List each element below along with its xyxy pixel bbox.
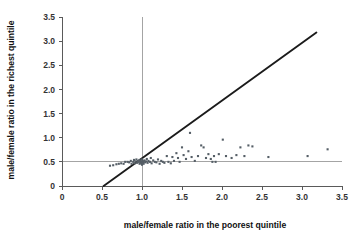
y-tick-label: 2.0 (43, 85, 55, 95)
x-axis-tick-labels: 00.51.01.52.02.53.03.5 (60, 192, 349, 202)
data-point (124, 161, 126, 163)
data-point (225, 155, 227, 157)
y-tick-label: 3.5 (43, 12, 55, 22)
data-point (151, 162, 153, 164)
data-point (134, 162, 136, 164)
data-point (215, 161, 217, 163)
x-tick-label: 3.0 (296, 192, 308, 202)
data-point (146, 158, 148, 160)
data-point (243, 155, 245, 157)
data-point (210, 158, 212, 160)
data-point (235, 154, 237, 156)
data-point (163, 162, 165, 164)
data-point (185, 158, 187, 160)
data-point (147, 162, 149, 164)
x-tick-label: 2.0 (216, 192, 228, 202)
data-point (207, 153, 209, 155)
data-point (189, 132, 191, 134)
data-point (118, 163, 120, 165)
data-point (173, 160, 175, 162)
data-point (251, 145, 253, 147)
data-point (194, 160, 196, 162)
data-point (131, 163, 133, 165)
x-tick-label: 0 (60, 192, 65, 202)
data-point (211, 161, 213, 163)
data-point (307, 155, 309, 157)
data-point (159, 163, 161, 165)
y-axis-tick-labels: 00.51.01.52.02.53.03.5 (43, 12, 55, 191)
y-tick-label: 3.0 (43, 36, 55, 46)
data-point (155, 161, 157, 163)
y-tick-label: 0.5 (43, 157, 55, 167)
data-point (183, 154, 185, 156)
data-point (171, 156, 173, 158)
data-point (166, 155, 168, 157)
data-point (213, 155, 215, 157)
axes-group (62, 17, 342, 186)
data-point (191, 156, 193, 158)
chart-container: 00.51.01.52.02.53.03.5 00.51.01.52.02.53… (0, 0, 362, 236)
data-point (197, 155, 199, 157)
data-point (167, 161, 169, 163)
data-point (181, 146, 183, 148)
data-point (157, 158, 159, 160)
data-point (222, 139, 224, 141)
x-axis-title: male/female ratio in the poorest quintil… (124, 220, 287, 230)
y-tick-label: 1.5 (43, 109, 55, 119)
data-point (247, 144, 249, 146)
y-tick-label: 0 (50, 181, 55, 191)
data-point (218, 153, 220, 155)
data-point (200, 144, 202, 146)
data-point (179, 161, 181, 163)
data-point (170, 162, 172, 164)
data-point (231, 157, 233, 159)
data-point (267, 156, 269, 158)
reference-lines-group (62, 17, 342, 186)
x-tick-label: 3.5 (336, 192, 348, 202)
y-axis-title: male/female ratio in the richest quintil… (6, 20, 16, 179)
data-point (177, 157, 179, 159)
data-point (109, 165, 111, 167)
tick-marks-group (59, 17, 343, 190)
y-tick-label: 2.5 (43, 60, 55, 70)
data-point (150, 157, 152, 159)
scatter-plot: 00.51.01.52.02.53.03.5 00.51.01.52.02.53… (0, 0, 362, 236)
y-tick-label: 1.0 (43, 133, 55, 143)
data-point (120, 162, 122, 164)
x-tick-label: 0.5 (96, 192, 108, 202)
data-point (187, 150, 189, 152)
data-point (115, 163, 117, 165)
x-tick-label: 1.0 (136, 192, 148, 202)
data-point (130, 160, 132, 162)
x-tick-label: 2.5 (256, 192, 268, 202)
data-point (327, 148, 329, 150)
data-point (112, 164, 114, 166)
data-point (203, 146, 205, 148)
data-point (239, 146, 241, 148)
data-point (123, 163, 125, 165)
data-point (175, 152, 177, 154)
data-point (205, 157, 207, 159)
x-tick-label: 1.5 (176, 192, 188, 202)
